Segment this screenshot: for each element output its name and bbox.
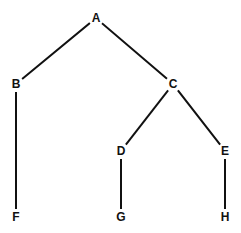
edge-a-c: [103, 24, 166, 78]
edge-c-d: [127, 91, 168, 144]
edge-a-b: [23, 24, 89, 79]
node-h: H: [221, 210, 230, 224]
node-g: G: [116, 210, 125, 224]
node-f: F: [12, 210, 19, 224]
node-d: D: [117, 144, 126, 158]
node-c: C: [169, 77, 178, 91]
node-a: A: [92, 11, 101, 25]
node-b: B: [12, 77, 21, 91]
tree-diagram: ABCDEFGH: [0, 0, 241, 233]
edge-c-e: [179, 91, 220, 144]
edges-group: [16, 24, 225, 208]
node-e: E: [221, 144, 229, 158]
